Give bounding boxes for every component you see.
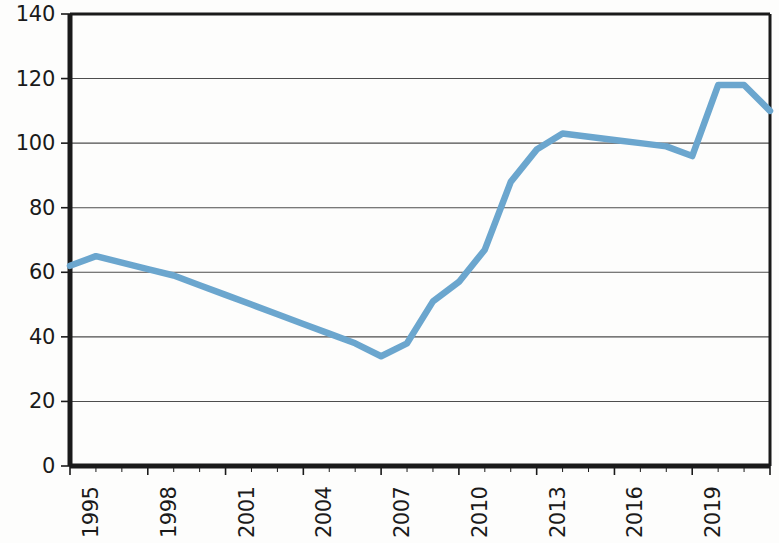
- gridlines: [70, 79, 770, 402]
- plot-area: [0, 0, 779, 543]
- series-line-0: [70, 85, 770, 356]
- plot-frame: [70, 14, 770, 466]
- data-series: [70, 85, 770, 356]
- line-chart: 020406080100120140 199519982001200420072…: [0, 0, 779, 543]
